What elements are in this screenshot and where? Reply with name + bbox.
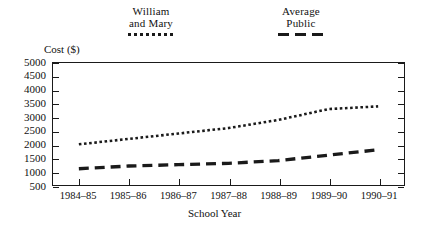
- legend-label-william-and-mary-line1: William: [96, 6, 206, 18]
- x-axis-tick: [230, 179, 231, 185]
- y-axis-tick-label: 3000: [24, 112, 46, 123]
- y-axis-tick-label: 3500: [24, 98, 46, 109]
- y-axis-tick-label: 5000: [24, 57, 46, 68]
- y-axis-tick: [53, 159, 59, 160]
- y-axis-tick: [53, 132, 59, 133]
- legend-label-william-and-mary-line2: and Mary: [96, 18, 206, 30]
- legend-swatch-william-and-mary: [96, 31, 206, 39]
- x-axis-title: School Year: [0, 207, 429, 219]
- y-axis-tick-label: 4500: [24, 70, 46, 81]
- y-axis-tick: [398, 146, 404, 147]
- y-axis-tick-label: 4000: [24, 84, 46, 95]
- y-axis-tick: [53, 77, 59, 78]
- x-axis-tick-label: 1984–85: [60, 190, 97, 201]
- x-axis-tick-labels: 1984–851985–861986–871987–881988–891989–…: [0, 190, 429, 206]
- x-axis-tick-label: 1986–87: [160, 190, 197, 201]
- x-axis-tick-label: 1987–88: [210, 190, 247, 201]
- y-axis-tick: [398, 187, 404, 188]
- y-axis-tick-labels: 500045004000350030002500200015001000500: [0, 62, 50, 186]
- dashed-line-swatch-icon: [278, 33, 324, 36]
- y-axis-tick-label: 2000: [24, 139, 46, 150]
- y-axis-tick: [53, 146, 59, 147]
- plot-inner: [53, 63, 404, 185]
- y-axis-tick: [398, 173, 404, 174]
- y-axis-tick-label: 1500: [24, 153, 46, 164]
- y-axis-tick: [53, 187, 59, 188]
- y-axis-tick: [398, 91, 404, 92]
- y-axis-tick: [398, 63, 404, 64]
- x-axis-tick: [129, 179, 130, 185]
- series-line-average-public: [79, 150, 378, 169]
- plot-area: [52, 62, 405, 186]
- x-axis-tick: [280, 179, 281, 185]
- series-lines: [53, 63, 404, 185]
- y-axis-tick-label: 1000: [24, 167, 46, 178]
- x-axis-tick: [380, 179, 381, 185]
- legend-label-average-public-line1: Average: [246, 6, 356, 18]
- y-axis-title: Cost ($): [44, 43, 80, 55]
- y-axis-tick: [53, 63, 59, 64]
- x-axis-tick-label: 1988–89: [260, 190, 297, 201]
- y-axis-tick: [398, 159, 404, 160]
- x-axis-tick: [330, 179, 331, 185]
- x-axis-tick-label: 1990–91: [361, 190, 398, 201]
- x-axis-tick-label: 1985–86: [110, 190, 147, 201]
- x-axis-tick: [79, 179, 80, 185]
- x-axis-tick-label: 1989–90: [310, 190, 347, 201]
- dotted-line-swatch-icon: [128, 33, 174, 36]
- y-axis-tick: [53, 173, 59, 174]
- legend-entry-average-public: Average Public: [246, 6, 356, 39]
- y-axis-tick: [53, 104, 59, 105]
- series-line-william-and-mary: [79, 106, 378, 144]
- y-axis-tick: [53, 91, 59, 92]
- y-axis-tick-label: 2500: [24, 125, 46, 136]
- cost-comparison-line-chart: William and Mary Average Public Cost ($)…: [0, 0, 429, 237]
- x-axis-tick: [179, 179, 180, 185]
- y-axis-tick: [398, 118, 404, 119]
- y-axis-tick: [398, 104, 404, 105]
- legend-swatch-average-public: [246, 31, 356, 39]
- y-axis-tick: [398, 77, 404, 78]
- y-axis-tick: [398, 132, 404, 133]
- legend-label-average-public-line2: Public: [246, 18, 356, 30]
- legend-entry-william-and-mary: William and Mary: [96, 6, 206, 39]
- y-axis-tick: [53, 118, 59, 119]
